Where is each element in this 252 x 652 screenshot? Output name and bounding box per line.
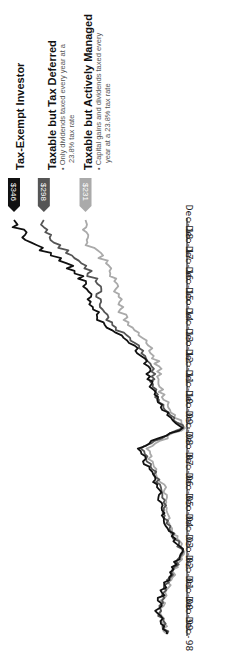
legend-title: Taxable but Actively Managed <box>82 14 94 170</box>
series-lines <box>13 220 185 634</box>
end-value-label: $298 <box>39 183 48 201</box>
end-value-label: $231 <box>81 183 90 201</box>
legend-title: Taxable but Tax Deferred <box>46 40 58 170</box>
axis-tick-label: Dec-18 <box>184 205 195 240</box>
legend-note: • Capital gains and dividends taxed ever… <box>94 32 103 170</box>
series-line <box>41 220 183 634</box>
end-value-tags: $346$298$231 <box>8 178 92 212</box>
rotated-line-chart: Dec-98Dec-99Dec-00Dec-01Dec-02Dec-03Dec-… <box>0 0 252 652</box>
legend: Tax-Exempt InvestorTaxable but Tax Defer… <box>14 14 112 170</box>
legend-note: 23.8% tax rate <box>67 115 76 163</box>
legend-title: Tax-Exempt Investor <box>14 62 26 170</box>
legend-note: • Only dividends taxed every year at a <box>58 43 67 170</box>
end-value-label: $346 <box>9 183 18 201</box>
legend-note: year at a 23.8% tax rate <box>103 83 112 163</box>
series-line <box>13 220 184 634</box>
